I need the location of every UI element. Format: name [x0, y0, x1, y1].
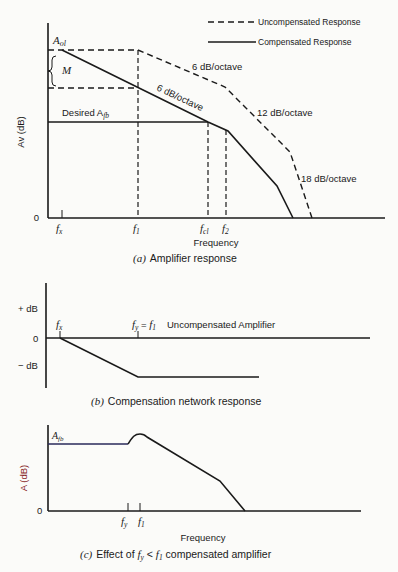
desired-afb-label: Desired Afb — [62, 107, 109, 120]
panel-c-effect-of-fy: 0 A (dB) Afb fy f1 Frequency (c)Effect o… — [18, 425, 361, 562]
fx-label: fx — [56, 318, 63, 332]
panel-a-caption: (a)Amplifier response — [133, 252, 237, 265]
f2-label: f2 — [222, 222, 229, 236]
aol-label: Aol — [52, 34, 67, 48]
fcl-label: fcl — [200, 222, 208, 236]
panel-b-caption: (b)Compensation network response — [91, 395, 261, 408]
panel-b-compensation-network: + dB 0 − dB fx fy = f1 Uncompensated Amp… — [18, 283, 370, 408]
plus-db-label: + dB — [18, 303, 38, 314]
f1-label: f1 — [138, 515, 145, 529]
minus-db-label: − dB — [18, 360, 38, 371]
compensated-with-fy-curve — [128, 434, 245, 511]
panel-a-zero-label: 0 — [34, 212, 39, 223]
uncompensated-amplifier-label: Uncompensated Amplifier — [167, 319, 275, 330]
afb-label: Afb — [51, 430, 64, 443]
panel-a-amplifier-response: 0 Av (dB) Aol M Desired Afb 6 dB/octave … — [15, 23, 385, 265]
uncompensated-response-curve — [48, 50, 312, 218]
amplifier-compensation-diagram: Uncompensated Response Compensated Respo… — [0, 0, 398, 572]
margin-label: M — [61, 64, 72, 76]
panel-c-x-label: Frequency — [181, 532, 226, 543]
legend: Uncompensated Response Compensated Respo… — [208, 17, 361, 47]
margin-brace-icon — [48, 56, 56, 86]
legend-uncompensated-label: Uncompensated Response — [258, 17, 361, 27]
panel-c-y-label: A (dB) — [18, 465, 29, 491]
panel-c-zero-label: 0 — [37, 505, 42, 516]
fy-equals-f1-label: fy = f1 — [132, 318, 156, 332]
panel-b-zero-label: 0 — [33, 333, 38, 344]
compensation-network-curve — [60, 338, 259, 377]
panel-c-caption: (c)Effect of fy < f1 compensated amplifi… — [80, 548, 272, 562]
f1-label: f1 — [133, 222, 140, 236]
fx-label: fx — [56, 222, 63, 236]
uncomp-slope-12db-label: 12 dB/octave — [257, 107, 312, 118]
uncomp-slope-6db-label: 6 dB/octave — [192, 61, 242, 72]
compensated-response-curve — [62, 50, 293, 218]
fy-label: fy — [121, 515, 128, 529]
legend-compensated-label: Compensated Response — [258, 37, 352, 47]
panel-a-y-label: Av (dB) — [15, 116, 26, 148]
panel-a-x-label: Frequency — [194, 237, 239, 248]
uncomp-slope-18db-label: 18 dB/octave — [301, 173, 356, 184]
